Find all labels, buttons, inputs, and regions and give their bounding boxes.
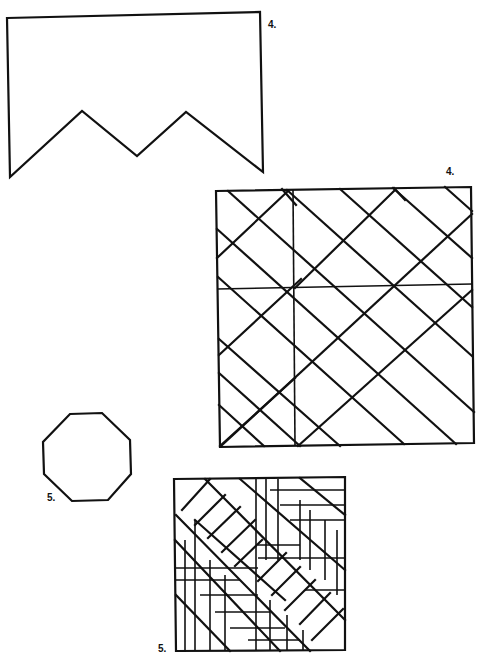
diagonal-grid: [216, 187, 474, 447]
banner-shape: [7, 12, 263, 177]
octagon: [43, 413, 131, 501]
drawing-canvas: [0, 0, 487, 661]
figure-label-grid: 4.: [446, 166, 454, 177]
figure-label-chevron: 5.: [158, 643, 166, 654]
figure-label-banner: 4.: [268, 19, 276, 30]
figure-label-octagon: 5.: [47, 492, 55, 503]
chevron-pattern: [174, 477, 345, 651]
